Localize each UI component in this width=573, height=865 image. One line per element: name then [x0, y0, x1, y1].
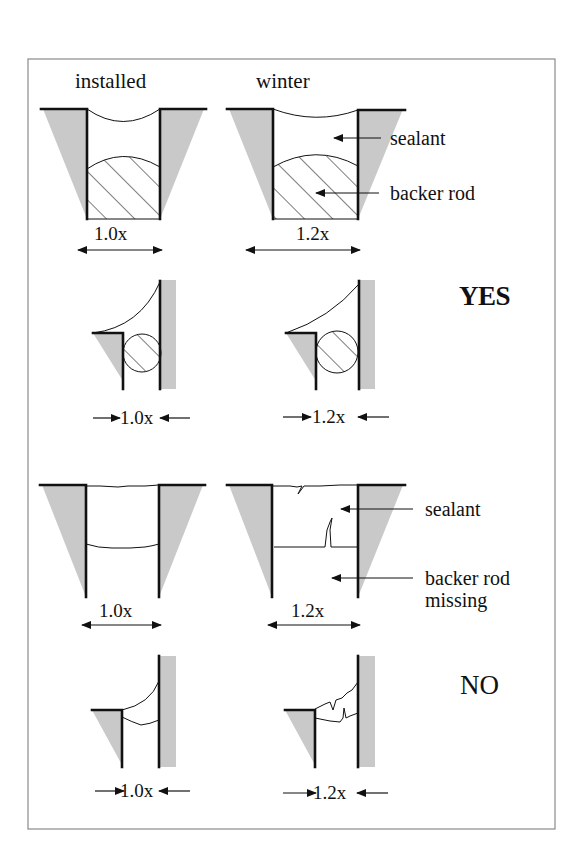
dimension-label: 1.2x: [291, 600, 325, 621]
substrate-right: [160, 280, 176, 389]
panel-no-butt-installed: 1.0x: [40, 485, 205, 625]
panel-yes-corner-winter: 1.2x: [283, 280, 389, 427]
column-header-winter: winter: [256, 69, 310, 93]
dimension-label: 1.2x: [312, 406, 346, 427]
sealant-joint-diagram: installed winter 1.0x sealant backer rod…: [0, 0, 573, 865]
substrate-right: [160, 109, 204, 219]
substrate-left: [43, 109, 87, 219]
column-header-installed: installed: [75, 69, 147, 93]
callout-backer-rod: backer rod: [425, 567, 510, 589]
panel-no-corner-winter: 1.2x: [283, 656, 388, 803]
callout-backer-rod: backer rod: [390, 182, 475, 204]
callout-sealant: sealant: [425, 498, 481, 520]
dimension-label: 1.0x: [99, 600, 133, 621]
callout-sealant: sealant: [390, 127, 446, 149]
substrate-right: [159, 656, 176, 767]
substrate-right: [358, 656, 375, 767]
sealant-surface: [87, 109, 160, 122]
panel-yes-butt-winter: sealant backer rod 1.2x: [227, 109, 475, 250]
sealant-bottom: [122, 717, 159, 725]
backer-rod: [316, 331, 358, 373]
dimension-label: 1.2x: [296, 223, 330, 244]
callout-missing: missing: [425, 589, 487, 612]
sealant-surface-cracked: [315, 682, 358, 710]
sealant-surface: [286, 284, 359, 333]
substrate-left: [92, 710, 122, 765]
substrate-left: [286, 333, 316, 381]
substrate-left: [229, 109, 273, 219]
panel-yes-corner-installed: 1.0x: [93, 280, 190, 428]
sealant-bottom-cracked: [274, 518, 358, 547]
sealant-surface: [93, 282, 160, 333]
dimension-label: 1.2x: [313, 782, 347, 803]
sealant-surface: [273, 109, 358, 117]
panel-yes-butt-installed: 1.0x: [41, 109, 206, 250]
substrate-left: [42, 485, 86, 597]
dimension-label: 1.0x: [120, 780, 154, 801]
sealant-top-cracked: [272, 485, 358, 494]
substrate-left: [285, 710, 315, 765]
verdict-yes: YES: [459, 281, 510, 311]
substrate-left: [229, 485, 272, 597]
backer-rod: [123, 334, 161, 372]
backer-rod: [273, 155, 358, 219]
panel-no-corner-installed: 1.0x: [92, 656, 190, 801]
panel-no-butt-winter: sealant backer rod missing 1.2x: [227, 485, 510, 625]
sealant-top: [86, 485, 159, 487]
substrate-right: [159, 485, 203, 597]
backer-rod: [87, 156, 160, 219]
sealant-bottom: [86, 544, 159, 548]
substrate-left: [93, 333, 123, 381]
substrate-right: [358, 485, 403, 597]
dimension-label: 1.0x: [120, 407, 154, 428]
substrate-right: [359, 280, 375, 389]
dimension-label: 1.0x: [94, 223, 128, 244]
sealant-surface: [122, 681, 159, 710]
sealant-bottom-cracked: [315, 708, 358, 722]
verdict-no: NO: [460, 670, 499, 700]
